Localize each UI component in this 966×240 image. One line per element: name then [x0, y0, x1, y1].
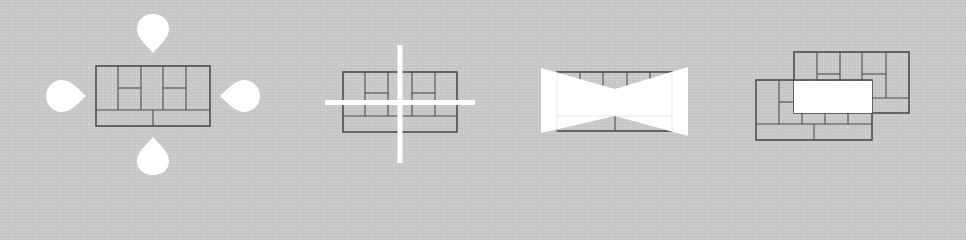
drop-right-icon: [220, 80, 260, 112]
crosshair-icon: [300, 0, 510, 185]
panel-pan: [0, 0, 300, 185]
crosshair-horizontal: [325, 100, 475, 105]
panel-crosshair: [300, 0, 510, 185]
panel-overlap: [720, 0, 966, 185]
drop-bottom-icon: [137, 137, 169, 175]
overlap-icon: [720, 0, 966, 185]
drop-left-icon: [46, 80, 86, 112]
panel-bowtie: [510, 0, 720, 185]
overlap-highlight: [794, 81, 872, 113]
perspective-icon: [510, 0, 720, 185]
pan-drops-icon: [0, 0, 300, 185]
drop-top-icon: [137, 14, 169, 53]
floor-plan: [96, 66, 210, 126]
